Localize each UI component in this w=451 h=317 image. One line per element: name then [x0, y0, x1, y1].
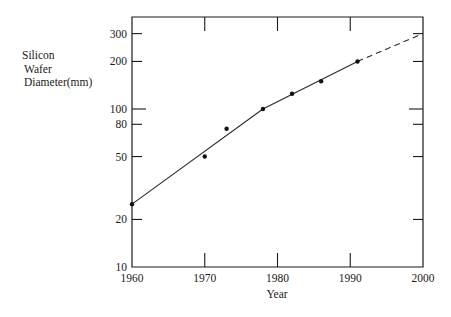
x-tick-label: 2000 — [412, 272, 435, 284]
x-tick-label: 1990 — [339, 272, 362, 284]
y-tick-labels: 10205080100200300 — [110, 28, 128, 273]
y-tick-label: 300 — [110, 28, 128, 40]
x-axis-label: Year — [266, 288, 287, 300]
data-points — [130, 59, 360, 206]
x-tick-label: 1980 — [266, 272, 289, 284]
chart-canvas: 10205080100200300 19601970198019902000 Y… — [0, 0, 451, 317]
data-point — [261, 107, 265, 111]
x-tick-label: 1960 — [121, 272, 144, 284]
data-point — [224, 127, 228, 131]
trend-solid-line — [132, 61, 358, 204]
x-tick-labels: 19601970198019902000 — [121, 272, 435, 284]
data-point — [319, 79, 323, 83]
data-point — [203, 154, 207, 158]
projection-dashed-line — [358, 34, 424, 62]
y-tick-label: 80 — [116, 118, 128, 130]
data-point — [290, 91, 294, 95]
y-tick-label: 50 — [116, 151, 128, 163]
plot-border — [132, 17, 423, 267]
y-tick-label: 200 — [110, 55, 128, 67]
y-tick-label: 20 — [116, 213, 128, 225]
data-point — [355, 59, 359, 63]
data-point — [130, 202, 134, 206]
x-tick-label: 1970 — [193, 272, 216, 284]
y-tick-label: 100 — [110, 103, 128, 115]
plot-frame — [132, 17, 423, 267]
trend-lines — [132, 34, 423, 205]
axis-ticks — [132, 17, 423, 267]
